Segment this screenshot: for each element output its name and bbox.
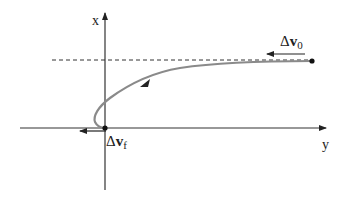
diagram-svg: x y Δv0 Δvf [0, 0, 350, 202]
end-point [102, 125, 107, 130]
trajectory-diagram: x y Δv0 Δvf [0, 0, 350, 202]
delta-v0-label: Δv0 [280, 33, 303, 51]
horizontal-axis-label: y [322, 137, 329, 152]
vertical-axis-label: x [92, 13, 99, 28]
trajectory-curve [95, 61, 312, 128]
delta-vf-label: Δvf [106, 133, 127, 151]
start-point [309, 58, 314, 63]
